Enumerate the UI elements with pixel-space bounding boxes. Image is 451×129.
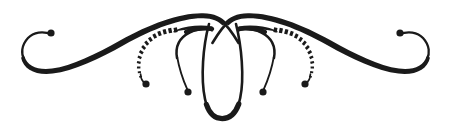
right-dashed-arc [275,28,314,84]
right-outer-swash [225,13,431,74]
center-loop-base-weight [206,104,238,119]
ink-group [21,13,430,118]
left-outer-swash [21,13,227,74]
left-dashed-arc-ball-terminal [142,80,149,87]
right-inner-arc-tail [263,56,274,90]
right-inner-arc-ball-terminal [259,88,266,95]
right-inner-arc-head [239,28,265,32]
left-spiral-curl [22,32,51,59]
right-inner-arc-body [238,29,275,58]
right-dashed-arc-ball-terminal [301,80,308,87]
left-dashed-arc [137,28,176,84]
left-inner-arc-tail [177,56,188,90]
flourish-ornament-svg: Calligraphic Divider Flourish [0,0,451,129]
right-curl-ball-terminal [396,29,403,36]
right-spiral-curl [400,32,429,59]
left-inner-arc-ball-terminal [184,88,191,95]
ornament-canvas: Calligraphic Divider Flourish [0,0,451,129]
left-curl-ball-terminal [47,29,54,36]
